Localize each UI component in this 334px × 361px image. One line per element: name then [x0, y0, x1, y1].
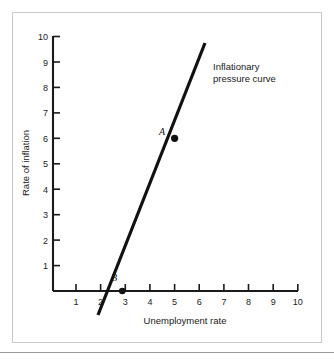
bottom-divider	[0, 352, 334, 353]
point-b-marker	[119, 288, 126, 295]
inflation-unemployment-chart: 10 9 8 7 6 5 4 3 2 1 1 2 3 4 5 6 7 8	[13, 13, 321, 342]
figure-root: 10 9 8 7 6 5 4 3 2 1 1 2 3 4 5 6 7 8	[0, 0, 334, 361]
x-tick-label: 4	[147, 297, 152, 307]
x-tick-label: 5	[172, 297, 177, 307]
point-b-label: B	[111, 272, 117, 283]
y-tick-label: 1	[43, 261, 48, 271]
x-tick-label: 10	[293, 297, 303, 307]
curve-label-line2: pressure curve	[213, 73, 276, 84]
chart-panel: 10 9 8 7 6 5 4 3 2 1 1 2 3 4 5 6 7 8	[12, 12, 322, 343]
y-tick-label: 6	[43, 134, 48, 144]
x-tick-label: 3	[123, 297, 128, 307]
y-tick-label: 9	[43, 58, 48, 68]
point-a-marker	[171, 135, 178, 142]
x-tick-label: 7	[221, 297, 226, 307]
x-axis-title: Unemployment rate	[144, 315, 227, 326]
point-a-label: A	[158, 126, 166, 137]
y-tick-label: 7	[43, 108, 48, 118]
x-tick-label: 6	[197, 297, 202, 307]
y-tick-label: 3	[43, 210, 48, 220]
x-axis-tick-labels: 1 2 3 4 5 6 7 8 9 10	[73, 297, 302, 307]
y-tick-label: 8	[43, 83, 48, 93]
curve-label-line1: Inflationary	[213, 61, 260, 72]
x-tick-label: 1	[73, 297, 78, 307]
y-axis-tick-labels: 10 9 8 7 6 5 4 3 2 1	[38, 32, 48, 271]
y-tick-label: 4	[43, 185, 48, 195]
y-tick-label: 5	[43, 159, 48, 169]
y-tick-label: 10	[38, 32, 48, 42]
y-tick-label: 2	[43, 236, 48, 246]
y-axis-title: Rate of inflation	[20, 130, 31, 196]
x-tick-label: 8	[246, 297, 251, 307]
x-tick-label: 9	[271, 297, 276, 307]
